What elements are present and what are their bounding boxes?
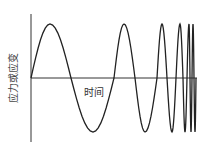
y-axis-label: 应力或应变 [5,53,20,103]
chirp-diagram [0,0,209,157]
x-axis-label: 时间 [84,84,104,99]
